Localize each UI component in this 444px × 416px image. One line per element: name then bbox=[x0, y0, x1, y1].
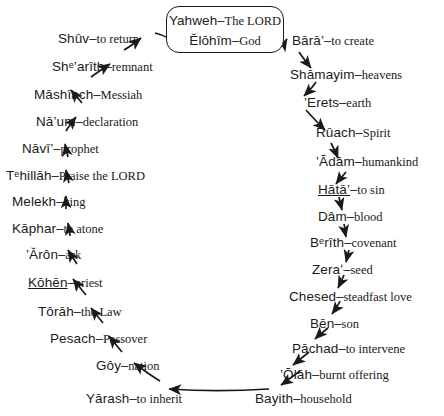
term-mashiach: Māshîach–Messiah bbox=[34, 86, 142, 102]
title-gloss-yahweh: The L bbox=[225, 14, 255, 28]
term-gloss-olah: burnt offering bbox=[319, 368, 389, 382]
term-gloss-kohen: priest bbox=[75, 276, 103, 290]
term-gloss-yarash: to inherit bbox=[137, 392, 182, 406]
title-line-elohim: Ĕlōhîm–God bbox=[189, 30, 260, 50]
term-hebrew-olah: ’Ōlāh bbox=[280, 367, 312, 382]
term-torah: Tôrāh–the Law bbox=[38, 303, 122, 319]
term-shuv: Shûv–to return bbox=[58, 30, 139, 46]
term-gloss-zera: seed bbox=[351, 263, 373, 277]
term-hebrew-erets: ’Erets bbox=[304, 95, 339, 110]
term-goy: Gôy–nation bbox=[96, 357, 160, 373]
term-hebrew-ruach: Rûach bbox=[316, 125, 356, 140]
term-dash-zera: – bbox=[343, 262, 350, 277]
term-kaphar: Kāphar–to atone bbox=[12, 220, 103, 236]
term-dash-yarash: – bbox=[129, 391, 136, 406]
title-gloss-elohim: God bbox=[239, 34, 261, 48]
term-gloss-hata: to sin bbox=[357, 183, 384, 197]
title-line-yahweh: Yahweh–The LORD bbox=[169, 10, 281, 30]
term-gloss-ben: son bbox=[342, 317, 359, 331]
term-pachad: Pāchad–to intervene bbox=[292, 340, 405, 356]
term-dash-shamayim: – bbox=[355, 67, 362, 82]
term-hebrew-bayith: Bayith bbox=[255, 391, 293, 406]
term-hebrew-pachad: Pāchad bbox=[292, 341, 338, 356]
term-gloss-pesach: Passover bbox=[103, 332, 147, 346]
term-kohen: Kōhēn–priest bbox=[28, 274, 103, 290]
term-dash-dam: – bbox=[347, 209, 354, 224]
term-dash-pesach: – bbox=[96, 331, 103, 346]
term-aron: ’Ărôn–ark bbox=[26, 246, 81, 262]
term-erets: ’Erets–earth bbox=[304, 94, 371, 110]
term-hebrew-yarash: Yārash bbox=[86, 391, 129, 406]
term-tehillah: Tᵉhillāh–Praise the LORD bbox=[6, 167, 145, 183]
term-chesed: Chesed–steadfast love bbox=[289, 288, 412, 304]
term-gloss-tehillah: Praise the L bbox=[59, 169, 119, 183]
term-dash-ruach: – bbox=[356, 125, 363, 140]
term-gloss-pachad: to intervene bbox=[346, 342, 405, 356]
term-bayith: Bayith–household bbox=[255, 390, 352, 406]
term-gloss-torah: the Law bbox=[81, 305, 122, 319]
term-pesach: Pesach–Passover bbox=[50, 330, 147, 346]
term-dash-ben: – bbox=[334, 316, 341, 331]
term-hebrew-kohen: Kōhēn bbox=[28, 275, 68, 290]
term-dash-kohen: – bbox=[68, 275, 75, 290]
term-olah: ’Ōlāh–burnt offering bbox=[280, 366, 389, 382]
term-gloss-chesed: steadfast love bbox=[343, 290, 411, 304]
term-gloss-dam: blood bbox=[354, 210, 382, 224]
term-dash-navi: – bbox=[53, 141, 60, 156]
arrow-bayith-to-yarash bbox=[169, 389, 269, 391]
term-hebrew-berith: Bᵉrîth bbox=[310, 235, 344, 250]
term-naum: Nā’um–declaration bbox=[36, 113, 138, 129]
term-dash-tehillah: – bbox=[52, 168, 59, 183]
term-dam: Dâm–blood bbox=[318, 208, 383, 224]
term-gloss-shuv: to return bbox=[96, 32, 139, 46]
term-dash-mashiach: – bbox=[93, 87, 100, 102]
title-hebrew-yahweh: Yahweh bbox=[169, 13, 217, 28]
term-hebrew-dam: Dâm bbox=[318, 209, 347, 224]
term-hebrew-shamayim: Shāmayim bbox=[290, 67, 355, 82]
title-hebrew-elohim: Ĕlōhîm bbox=[189, 33, 232, 48]
diagram-canvas: Yahweh–The LORD Ĕlōhîm–God Bārā’–to crea… bbox=[0, 0, 444, 416]
term-gloss-berith: covenant bbox=[351, 236, 396, 250]
term-gloss-kaphar: to atone bbox=[63, 222, 103, 236]
term-gloss-bayith: household bbox=[300, 392, 351, 406]
term-hebrew-goy: Gôy bbox=[96, 358, 121, 373]
title-box: Yahweh–The LORD Ĕlōhîm–God bbox=[166, 6, 284, 53]
term-hebrew-adam: ’Ādâm bbox=[316, 154, 355, 169]
term-hebrew-shearith: Shᵉ’arîth bbox=[52, 59, 104, 74]
term-shamayim: Shāmayim–heavens bbox=[290, 66, 402, 82]
term-zera: Zeraʻ–seed bbox=[312, 261, 373, 277]
term-gloss-bara: to create bbox=[331, 34, 374, 48]
term-dash-pachad: – bbox=[338, 341, 345, 356]
term-adam: ’Ādâm–humankind bbox=[316, 153, 418, 169]
title-gloss-yahweh-smallcaps: ORD bbox=[255, 14, 281, 28]
term-gloss-shearith: remnant bbox=[112, 60, 153, 74]
term-hebrew-hata: Hātā’ bbox=[318, 182, 350, 197]
term-dash-naum: – bbox=[76, 114, 83, 129]
term-hebrew-mashiach: Māshîach bbox=[34, 87, 93, 102]
term-hebrew-bara: Bārā’ bbox=[292, 33, 324, 48]
term-gloss-ruach: Spirit bbox=[363, 126, 391, 140]
term-hebrew-aron: ’Ărôn bbox=[26, 247, 58, 262]
term-gloss-tehillah-smallcaps: ORD bbox=[119, 169, 145, 183]
term-hata: Hātā’–to sin bbox=[318, 181, 385, 197]
term-melekh: Melekh–king bbox=[12, 193, 86, 209]
term-dash-shearith: – bbox=[104, 59, 111, 74]
term-yarash: Yārash–to inherit bbox=[86, 390, 182, 406]
term-gloss-navi: prophet bbox=[61, 142, 99, 156]
term-hebrew-melekh: Melekh bbox=[12, 194, 56, 209]
term-dash-torah: – bbox=[74, 304, 81, 319]
term-hebrew-pesach: Pesach bbox=[50, 331, 96, 346]
term-hebrew-naum: Nā’um bbox=[36, 114, 76, 129]
term-bara: Bārā’–to create bbox=[292, 32, 374, 48]
term-gloss-aron: ark bbox=[65, 248, 81, 262]
term-hebrew-torah: Tôrāh bbox=[38, 304, 74, 319]
term-dash-adam: – bbox=[355, 154, 362, 169]
term-gloss-adam: humankind bbox=[362, 155, 418, 169]
term-gloss-naum: declaration bbox=[83, 115, 139, 129]
term-berith: Bᵉrîth–covenant bbox=[310, 234, 397, 250]
term-gloss-shamayim: heavens bbox=[362, 68, 402, 82]
term-hebrew-chesed: Chesed bbox=[289, 289, 336, 304]
term-gloss-mashiach: Messiah bbox=[101, 88, 143, 102]
term-hebrew-shuv: Shûv bbox=[58, 31, 89, 46]
term-ben: Bēn–son bbox=[310, 315, 359, 331]
